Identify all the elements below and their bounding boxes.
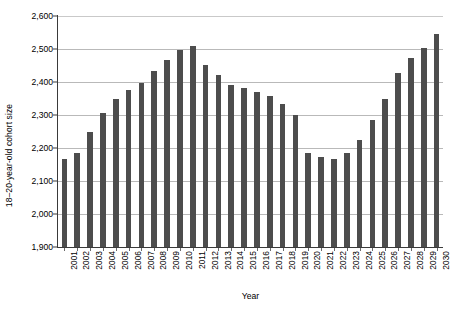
x-tick-mark: [308, 248, 309, 251]
y-tick-label: 2,500: [1, 44, 53, 54]
x-tick-label: 2010: [184, 251, 194, 291]
bar: [305, 153, 311, 247]
x-tick-label: 2020: [312, 251, 322, 291]
y-tick-label: 2,400: [1, 77, 53, 87]
bar: [177, 50, 183, 247]
y-tick-label: 2,200: [1, 143, 53, 153]
bar: [100, 113, 106, 247]
x-tick-label: 2003: [94, 251, 104, 291]
bar: [113, 99, 119, 247]
x-tick-label: 2012: [210, 251, 220, 291]
x-tick-label: 2015: [248, 251, 258, 291]
bar: [62, 159, 68, 247]
x-tick-label: 2001: [69, 251, 79, 291]
bar: [87, 132, 93, 248]
bar: [254, 92, 260, 247]
x-tick-mark: [154, 248, 155, 251]
bar: [344, 153, 350, 247]
x-tick-label: 2009: [171, 251, 181, 291]
x-tick-label: 2025: [377, 251, 387, 291]
bar: [421, 48, 427, 247]
y-axis-ticks: 2,6002,5002,4002,3002,2002,1002,0001,900: [0, 0, 53, 311]
bar: [267, 96, 273, 247]
x-tick-mark: [231, 248, 232, 251]
x-tick-label: 2024: [364, 251, 374, 291]
x-tick-mark: [372, 248, 373, 251]
bar: [139, 83, 145, 247]
bar: [164, 60, 170, 247]
x-tick-label: 2030: [441, 251, 451, 291]
x-tick-label: 2021: [325, 251, 335, 291]
bar-series: [58, 16, 443, 247]
y-tick-label: 2,000: [1, 209, 53, 219]
x-tick-label: 2007: [146, 251, 156, 291]
x-tick-mark: [90, 248, 91, 251]
bar: [151, 71, 157, 247]
x-tick-mark: [424, 248, 425, 251]
x-axis-title: Year: [58, 291, 443, 301]
x-tick-label: 2013: [223, 251, 233, 291]
x-tick-label: 2028: [415, 251, 425, 291]
bar: [370, 120, 376, 247]
x-tick-mark: [347, 248, 348, 251]
bar: [318, 157, 324, 247]
bar: [293, 115, 299, 247]
bar: [216, 75, 222, 247]
y-tick-label: 1,900: [1, 242, 53, 252]
x-tick-label: 2018: [287, 251, 297, 291]
y-tick-label: 2,600: [1, 11, 53, 21]
x-tick-mark: [398, 248, 399, 251]
x-tick-mark: [116, 248, 117, 251]
x-tick-mark: [283, 248, 284, 251]
x-tick-label: 2022: [338, 251, 348, 291]
y-tick-label: 2,300: [1, 110, 53, 120]
x-tick-mark: [270, 248, 271, 251]
x-tick-mark: [244, 248, 245, 251]
x-axis-ticks: 2001200220032004200520062007200820092010…: [58, 248, 443, 288]
bar: [357, 140, 363, 247]
x-tick-mark: [129, 248, 130, 251]
x-tick-mark: [385, 248, 386, 251]
x-tick-label: 2023: [351, 251, 361, 291]
x-tick-mark: [218, 248, 219, 251]
x-tick-label: 2016: [261, 251, 271, 291]
x-tick-mark: [321, 248, 322, 251]
x-tick-label: 2006: [133, 251, 143, 291]
bar: [190, 46, 196, 247]
x-tick-mark: [437, 248, 438, 251]
bar-chart: 18–20-year-old cohort size 2,6002,5002,4…: [0, 0, 453, 311]
bar: [74, 153, 80, 247]
y-tick-label: 2,100: [1, 176, 53, 186]
bar: [408, 58, 414, 247]
x-tick-mark: [206, 248, 207, 251]
x-tick-mark: [257, 248, 258, 251]
x-tick-label: 2027: [402, 251, 412, 291]
x-tick-mark: [180, 248, 181, 251]
x-tick-mark: [193, 248, 194, 251]
x-tick-label: 2019: [300, 251, 310, 291]
x-tick-label: 2011: [197, 251, 207, 291]
x-tick-mark: [103, 248, 104, 251]
bar: [280, 104, 286, 247]
bar: [126, 90, 132, 247]
bar: [382, 99, 388, 248]
bar: [395, 73, 401, 247]
x-tick-label: 2004: [107, 251, 117, 291]
x-tick-label: 2029: [428, 251, 438, 291]
x-tick-mark: [334, 248, 335, 251]
x-tick-mark: [77, 248, 78, 251]
bar: [434, 34, 440, 248]
x-tick-mark: [411, 248, 412, 251]
x-tick-label: 2008: [158, 251, 168, 291]
bar: [241, 88, 247, 247]
x-tick-label: 2017: [274, 251, 284, 291]
bar: [203, 65, 209, 247]
x-tick-mark: [64, 248, 65, 251]
x-tick-label: 2014: [235, 251, 245, 291]
x-tick-mark: [360, 248, 361, 251]
x-tick-mark: [141, 248, 142, 251]
x-tick-label: 2005: [120, 251, 130, 291]
x-tick-label: 2026: [389, 251, 399, 291]
x-tick-mark: [295, 248, 296, 251]
bar: [331, 159, 337, 247]
